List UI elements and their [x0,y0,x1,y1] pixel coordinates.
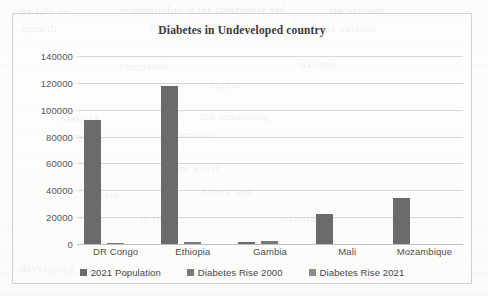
y-axis-tick-label: 0 [17,239,73,250]
chart-legend: 2021 PopulationDiabetes Rise 2000Diabete… [13,267,471,278]
y-axis-tick-label: 40000 [17,185,73,196]
y-axis-tick-label: 80000 [17,131,73,142]
x-axis-tick-label: Gambia [253,246,287,257]
y-axis-tick-label: 20000 [17,212,73,223]
legend-item[interactable]: Diabetes Rise 2021 [309,267,405,278]
chart-title: Diabetes in Undeveloped country [13,24,471,36]
x-axis: DR CongoEthiopiaGambiaMaliMozambique [77,246,463,262]
legend-item[interactable]: Diabetes Rise 2000 [187,267,283,278]
x-axis-tick-label: Mali [338,246,356,257]
bar-group [309,56,386,244]
legend-label: 2021 Population [91,267,161,278]
x-axis-tick-label: DR Congo [93,246,138,257]
legend-swatch-icon [187,269,194,276]
legend-swatch-icon [80,269,87,276]
x-axis-tick-label: Mozambique [397,246,452,257]
legend-item[interactable]: 2021 Population [80,267,161,278]
y-axis-tick-label: 60000 [17,158,73,169]
y-axis-tick-label: 140000 [17,51,73,62]
bar-group [386,56,463,244]
bar[interactable] [161,86,178,244]
bar[interactable] [261,241,278,244]
y-axis-tick-label: 120000 [17,77,73,88]
legend-label: Diabetes Rise 2021 [320,267,405,278]
legend-swatch-icon [309,269,316,276]
bar[interactable] [184,242,201,244]
bar[interactable] [238,242,255,244]
bar-group [231,56,308,244]
bar[interactable] [316,214,333,244]
chart-frame: Diabetes in Undeveloped country 02000040… [12,13,472,284]
x-axis-tick-label: Ethiopia [175,246,210,257]
bar-group [154,56,231,244]
bar-group [77,56,154,244]
legend-label: Diabetes Rise 2000 [198,267,283,278]
y-axis: 020000400006000080000100000120000140000 [13,56,73,244]
bar[interactable] [393,198,410,244]
y-axis-tick-label: 100000 [17,104,73,115]
bar[interactable] [107,243,124,244]
bar[interactable] [84,120,101,244]
axis-baseline [77,244,463,245]
plot-area [77,56,463,244]
